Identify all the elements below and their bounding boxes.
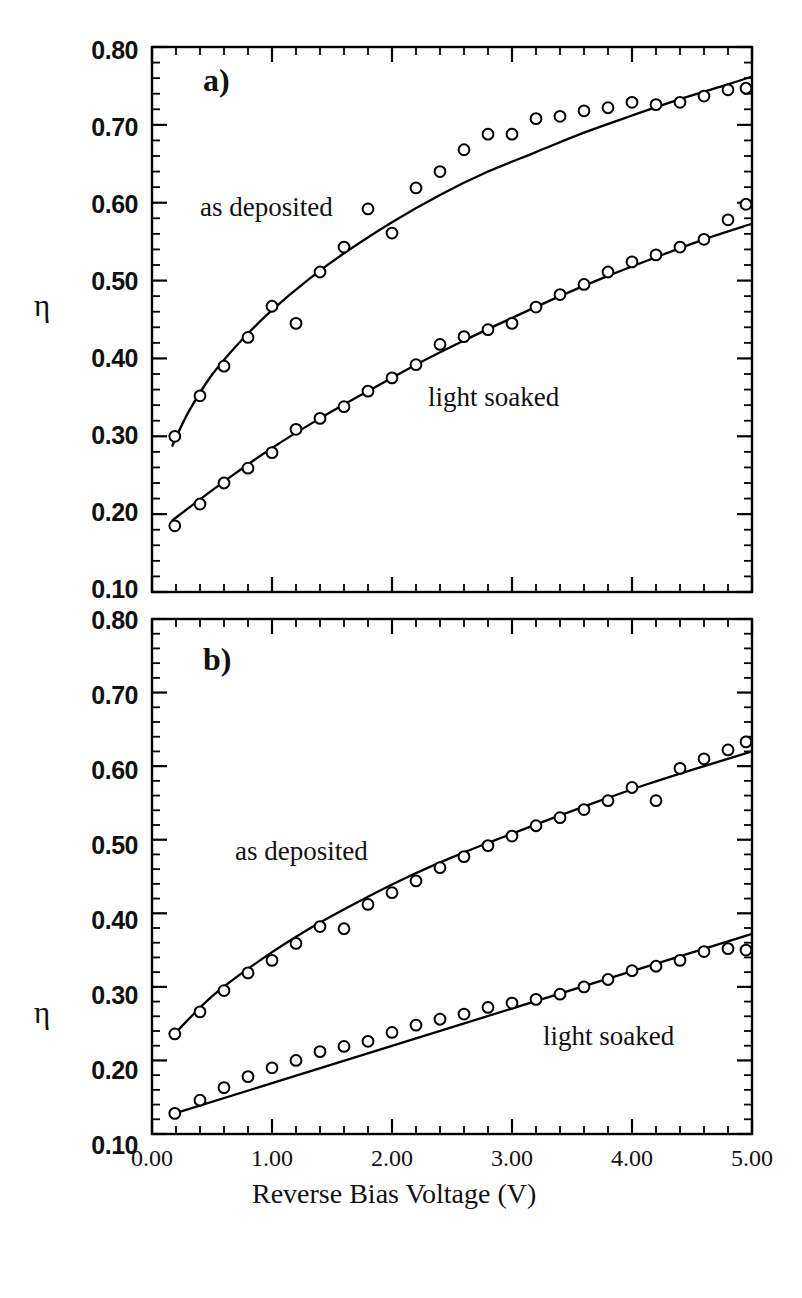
data-point-marker (699, 946, 710, 957)
data-point-marker (291, 424, 302, 435)
data-point-marker (603, 974, 614, 985)
panel-b-label-as-deposited: as deposited (235, 836, 368, 867)
data-point-marker (579, 105, 590, 116)
data-point-marker (363, 386, 374, 397)
data-point-marker (267, 955, 278, 966)
data-point-marker (579, 804, 590, 815)
data-point-marker (579, 279, 590, 290)
data-point-marker (603, 267, 614, 278)
data-point-marker (267, 1062, 278, 1073)
data-point-marker (699, 234, 710, 245)
data-point-marker (507, 129, 518, 140)
data-point-marker (675, 242, 686, 253)
data-point-marker (219, 985, 230, 996)
data-point-marker (195, 1006, 206, 1017)
data-point-marker (627, 965, 638, 976)
data-point-marker (435, 1014, 446, 1025)
data-point-marker (627, 256, 638, 267)
panel-b-label-light-soaked: light soaked (543, 1021, 674, 1052)
data-point-marker (723, 943, 734, 954)
data-point-marker (651, 961, 662, 972)
data-point-marker (411, 359, 422, 370)
data-point-marker (243, 332, 254, 343)
data-point-marker (579, 981, 590, 992)
data-point-marker (531, 302, 542, 313)
data-point-marker (411, 876, 422, 887)
panel-b: η 0.80 0.70 0.60 0.50 0.40 0.30 0.20 0.1… (0, 608, 802, 1298)
data-point-marker (459, 851, 470, 862)
x-tick-label-2: 2.00 (352, 1145, 432, 1172)
data-point-marker (627, 97, 638, 108)
data-point-marker (387, 1027, 398, 1038)
panel-a-plot-area (0, 0, 802, 600)
data-point-marker (483, 324, 494, 335)
x-tick-label-5: 5.00 (712, 1145, 792, 1172)
data-point-marker (195, 499, 206, 510)
panel-a-letter: a) (203, 62, 230, 99)
data-point-marker (267, 301, 278, 312)
data-point-marker (603, 102, 614, 113)
data-point-marker (195, 390, 206, 401)
data-point-marker (699, 91, 710, 102)
data-point-marker (459, 1009, 470, 1020)
data-point-marker (435, 862, 446, 873)
x-tick-label-3: 3.00 (472, 1145, 552, 1172)
data-point-marker (291, 1055, 302, 1066)
data-point-marker (363, 899, 374, 910)
data-point-marker (169, 1029, 180, 1040)
data-point-marker (741, 83, 752, 94)
data-point-marker (267, 447, 278, 458)
data-point-marker (315, 413, 326, 424)
x-tick-label-1: 1.00 (232, 1145, 312, 1172)
panel-a-label-light-soaked: light soaked (428, 382, 559, 413)
data-point-marker (169, 431, 180, 442)
data-point-marker (627, 782, 638, 793)
x-tick-label-0: 0.00 (112, 1145, 192, 1172)
data-point-marker (741, 736, 752, 747)
panel-a: η 0.80 0.70 0.60 0.50 0.40 0.30 0.20 0.1… (0, 0, 802, 600)
data-point-marker (291, 938, 302, 949)
data-point-marker (651, 99, 662, 110)
data-point-marker (169, 520, 180, 531)
data-point-marker (555, 812, 566, 823)
data-point-marker (459, 331, 470, 342)
data-point-marker (531, 113, 542, 124)
data-point-marker (675, 97, 686, 108)
data-point-marker (411, 1020, 422, 1031)
data-point-marker (507, 831, 518, 842)
data-point-marker (555, 289, 566, 300)
fit-curve-light-soaked (172, 224, 752, 521)
fit-curve-as-deposited (172, 751, 752, 1036)
panel-b-letter: b) (203, 641, 231, 678)
data-point-marker (435, 166, 446, 177)
data-point-marker (315, 1046, 326, 1057)
data-point-marker (243, 463, 254, 474)
data-point-marker (315, 921, 326, 932)
x-axis-title: Reverse Bias Voltage (V) (252, 1178, 536, 1210)
data-point-marker (699, 753, 710, 764)
data-point-marker (169, 1108, 180, 1119)
data-point-marker (507, 318, 518, 329)
data-point-marker (339, 401, 350, 412)
data-point-marker (723, 214, 734, 225)
data-point-marker (555, 989, 566, 1000)
data-point-marker (243, 1071, 254, 1082)
data-point-marker (219, 361, 230, 372)
data-point-marker (387, 372, 398, 383)
data-point-marker (219, 478, 230, 489)
data-point-marker (675, 955, 686, 966)
x-tick-label-4: 4.00 (592, 1145, 672, 1172)
data-point-marker (243, 967, 254, 978)
data-point-marker (651, 795, 662, 806)
data-point-marker (363, 1036, 374, 1047)
data-point-marker (459, 144, 470, 155)
data-point-marker (483, 840, 494, 851)
data-point-marker (339, 923, 350, 934)
data-point-marker (339, 1041, 350, 1052)
data-point-marker (507, 998, 518, 1009)
data-point-marker (531, 820, 542, 831)
data-point-marker (651, 249, 662, 260)
data-point-marker (387, 887, 398, 898)
data-point-marker (363, 204, 374, 215)
data-point-marker (483, 1002, 494, 1013)
